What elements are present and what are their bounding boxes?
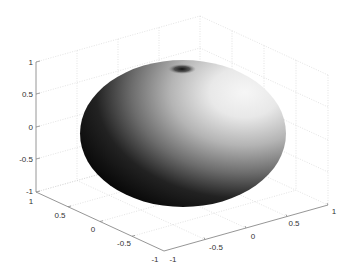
- z-tick-label: -1: [26, 187, 34, 196]
- x-tick-label: 0: [91, 225, 96, 234]
- x-tick-label: 0.5: [54, 211, 66, 220]
- y-tick-label: -1: [169, 255, 177, 264]
- y-tick-label: -0.5: [209, 243, 223, 252]
- x-tick-label: -1: [151, 255, 159, 264]
- z-tick-label: -0.5: [19, 155, 33, 164]
- z-tick-label: 0: [29, 123, 34, 132]
- x-tick-labels: 1 0.5 0 -0.5 -1: [29, 197, 159, 264]
- y-tick-label: 0.5: [288, 219, 300, 228]
- z-tick-label: 1: [29, 58, 34, 67]
- y-tick-label: 0: [251, 232, 256, 241]
- y-tick-label: 1: [332, 207, 337, 216]
- x-tick-label: 1: [29, 197, 34, 206]
- y-tick-labels: -1 -0.5 0 0.5 1: [169, 207, 336, 264]
- z-tick-labels: 1 0.5 0 -0.5 -1: [19, 58, 33, 196]
- x-tick-label: -0.5: [117, 239, 131, 248]
- figure: 1 0.5 0 -0.5 -1 1 0.5 0 -0.5 -1 -1 -0.5 …: [0, 0, 351, 276]
- z-tick-label: 0.5: [22, 90, 34, 99]
- plot-3d-axes: 1 0.5 0 -0.5 -1 1 0.5 0 -0.5 -1 -1 -0.5 …: [0, 0, 351, 276]
- pole-spot: [168, 64, 196, 74]
- sphere-surface: [80, 60, 286, 207]
